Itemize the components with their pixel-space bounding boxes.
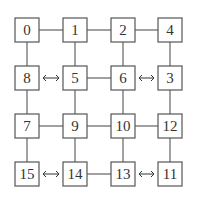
node-label: 14 <box>68 166 84 182</box>
double-arrow-icon <box>43 171 59 177</box>
node-box: 7 <box>15 114 39 138</box>
node-box: 0 <box>15 18 39 42</box>
node-box: 8 <box>15 66 39 90</box>
node-label: 13 <box>116 166 131 182</box>
double-arrow-icon <box>139 75 154 81</box>
node-label: 4 <box>166 22 174 38</box>
node-box: 10 <box>111 114 135 138</box>
node-label: 8 <box>23 70 31 86</box>
node-box: 3 <box>158 66 182 90</box>
node-box: 12 <box>158 114 182 138</box>
node-label: 12 <box>163 118 178 134</box>
node-box: 15 <box>15 162 39 186</box>
node-box: 2 <box>111 18 135 42</box>
node-label: 1 <box>71 22 79 38</box>
node-label: 2 <box>119 22 127 38</box>
node-box: 4 <box>158 18 182 42</box>
node-label: 11 <box>163 166 177 182</box>
node-box: 1 <box>63 18 87 42</box>
node-label: 9 <box>71 118 79 134</box>
node-box: 5 <box>63 66 87 90</box>
node-box: 14 <box>63 162 87 186</box>
node-label: 3 <box>166 70 174 86</box>
node-box: 6 <box>111 66 135 90</box>
edges-layer <box>27 30 170 177</box>
node-label: 10 <box>116 118 131 134</box>
double-arrow-icon <box>43 75 59 81</box>
node-label: 0 <box>23 22 31 38</box>
node-box: 13 <box>111 162 135 186</box>
grid-network-diagram: 0124856379101215141311 <box>0 0 198 197</box>
node-label: 15 <box>20 166 35 182</box>
node-box: 9 <box>63 114 87 138</box>
node-label: 5 <box>71 70 79 86</box>
node-label: 6 <box>119 70 127 86</box>
node-box: 11 <box>158 162 182 186</box>
node-label: 7 <box>23 118 31 134</box>
double-arrow-icon <box>139 171 154 177</box>
nodes-layer: 0124856379101215141311 <box>15 18 182 186</box>
